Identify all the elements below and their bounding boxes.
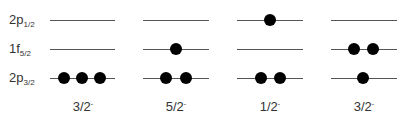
nucleon-dot — [58, 72, 70, 84]
nucleon-dot — [264, 14, 276, 26]
nucleon-dot — [357, 72, 369, 84]
energy-level-line — [50, 20, 115, 21]
nucleon-dot — [367, 43, 379, 55]
config-label-3: 1/2- — [240, 97, 300, 114]
energy-level-line — [143, 20, 209, 21]
nucleon-dot — [180, 72, 192, 84]
config-label-4: 3/2- — [334, 97, 394, 114]
energy-level-line — [237, 78, 303, 79]
nucleon-dot — [274, 72, 286, 84]
nucleon-dot — [170, 43, 182, 55]
nucleon-dot — [348, 43, 360, 55]
config-label-2: 5/2- — [146, 97, 206, 114]
orbital-label-2p3-2: 2p3/2 — [9, 71, 35, 90]
config-label-1: 3/2- — [53, 97, 113, 114]
orbital-label-1f5-2: 1f5/2 — [9, 42, 31, 61]
orbital-label-2p1-2: 2p1/2 — [9, 13, 35, 32]
nucleon-dot — [160, 72, 172, 84]
energy-level-line — [331, 20, 397, 21]
energy-level-line — [143, 78, 209, 79]
energy-level-line — [50, 49, 115, 50]
energy-level-line — [331, 49, 397, 50]
energy-level-line — [237, 49, 303, 50]
nucleon-dot — [94, 72, 106, 84]
nucleon-dot — [255, 72, 267, 84]
nucleon-dot — [76, 72, 88, 84]
